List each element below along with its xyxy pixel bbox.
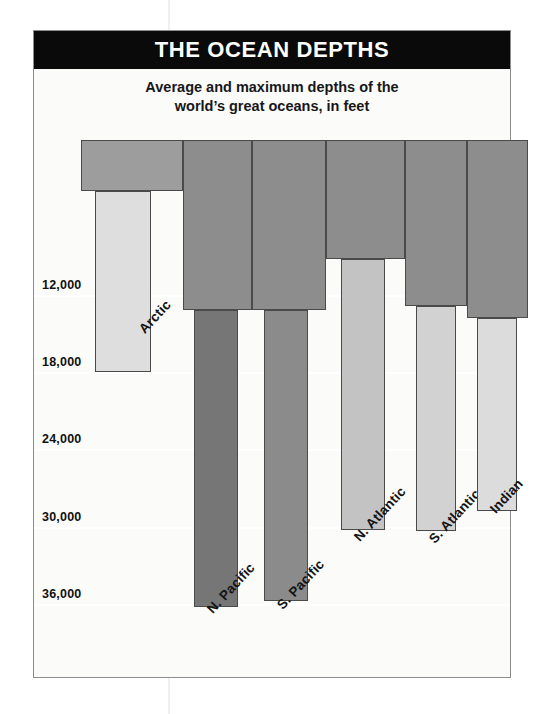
bar-average-depth — [81, 140, 183, 191]
bar-average-depth — [405, 140, 467, 306]
bar-maximum-depth — [194, 310, 238, 606]
bar-average-depth — [252, 140, 326, 310]
bar-average-depth — [183, 140, 252, 310]
y-axis-tick-label: 12,000 — [42, 278, 81, 292]
chart-subtitle-line-1: Average and maximum depths of the — [44, 78, 500, 97]
bar-maximum-depth — [264, 310, 308, 601]
chart-subtitle-line-2: world’s great oceans, in feet — [44, 97, 500, 116]
plot-area: 12,00018,00024,00030,00036,000ArcticN. P… — [34, 130, 510, 677]
y-axis-tick-label: 30,000 — [42, 510, 81, 524]
bar-maximum-depth — [341, 259, 385, 530]
chart-subtitle: Average and maximum depths of the world’… — [44, 78, 500, 116]
bar-average-depth — [467, 140, 528, 318]
bar-average-depth — [326, 140, 405, 259]
ocean-depths-figure: THE OCEAN DEPTHS Average and maximum dep… — [0, 0, 545, 714]
page-title: THE OCEAN DEPTHS — [155, 37, 390, 63]
bar-maximum-depth — [416, 306, 456, 531]
bar-maximum-depth — [95, 191, 151, 372]
y-axis-tick-label: 18,000 — [42, 355, 81, 369]
title-banner: THE OCEAN DEPTHS — [34, 31, 510, 69]
gridline — [34, 604, 510, 606]
y-axis-tick-label: 36,000 — [42, 587, 81, 601]
y-axis-tick-label: 24,000 — [42, 432, 81, 446]
